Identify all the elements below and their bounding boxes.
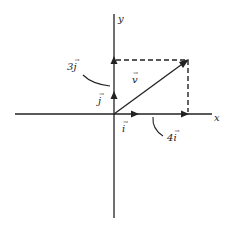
four-i-arrow-glyph: → [174,128,179,134]
vector-v-label: v→ [132,75,138,85]
unit-i-label: i→ [122,124,125,134]
unit-i-arrow-glyph: → [123,119,128,125]
unit-i-arrowhead [131,111,139,118]
unit-j-label: j→ [98,96,101,106]
vector-v-arrow-glyph: → [133,70,138,76]
x-axis-label: x [214,113,220,123]
vector-decomposition-diagram: y x 3j→ j→ v→ i→ 4i→ [0,0,231,231]
three-j-leader-curve [83,75,110,86]
unit-j-arrowhead [111,91,118,99]
four-i-leader-curve [153,117,163,136]
vector-v-line [114,62,185,114]
three-j-arrow-glyph: → [74,57,79,63]
y-axis-label: y [118,14,124,24]
four-i-label: 4i→ [167,133,177,143]
three-j-label: 3j→ [67,62,76,72]
diagram-svg [0,0,231,231]
unit-j-arrow-glyph: → [99,91,104,97]
